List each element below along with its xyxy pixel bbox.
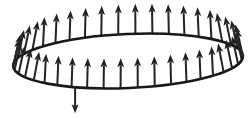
field-vector-up — [84, 58, 91, 88]
vector-shaft — [45, 61, 46, 83]
vector-shaft — [212, 53, 213, 75]
vector-shaft — [186, 59, 187, 82]
field-vector-down — [72, 87, 79, 113]
field-vector-up — [115, 4, 122, 34]
vector-shaft — [34, 59, 38, 81]
vector-shaft — [200, 56, 201, 79]
vector-shaft — [210, 17, 211, 39]
field-vector-up — [196, 49, 203, 79]
field-vector-up — [165, 4, 172, 34]
flux-diagram-figure: Flux through a circular loop — [0, 0, 252, 119]
field-vector-up — [41, 17, 48, 46]
field-vector-up — [32, 21, 39, 50]
vector-shaft — [32, 28, 36, 50]
vector-shaft — [168, 11, 169, 34]
field-vector-up — [98, 6, 105, 36]
field-vector-up — [151, 56, 158, 86]
field-vector-up — [207, 10, 214, 39]
field-vector-up — [182, 52, 189, 82]
field-vector-up — [180, 5, 187, 35]
field-vector-up — [34, 52, 41, 81]
vector-shaft — [219, 50, 223, 72]
vector-shaft — [55, 21, 56, 44]
field-vector-up — [132, 4, 139, 34]
field-vector-up — [216, 43, 223, 72]
vector-shaft — [43, 24, 44, 46]
field-vector-up — [67, 10, 74, 40]
vector-shaft — [87, 65, 88, 88]
field-vector-up — [53, 14, 60, 44]
vector-shaft — [218, 20, 222, 42]
field-vector-up — [194, 7, 201, 37]
vector-shaft — [25, 56, 29, 77]
vector-shaft — [171, 61, 172, 84]
field-vector-up — [209, 46, 216, 75]
field-vector-up — [167, 54, 174, 84]
field-vector-up — [117, 58, 124, 88]
vector-shaft — [184, 12, 185, 35]
field-vector-up — [149, 4, 156, 34]
field-vector-up — [55, 56, 62, 86]
field-vector-up — [69, 57, 76, 87]
field-vector-up — [42, 54, 49, 83]
field-vector-up — [100, 58, 107, 88]
field-vector-up — [215, 13, 222, 42]
downward-vector-group — [72, 87, 79, 113]
field-vector-up — [224, 17, 231, 45]
vector-shaft — [57, 63, 58, 86]
vector-shaft — [72, 64, 73, 87]
vector-shaft — [70, 17, 71, 40]
vector-shaft — [228, 47, 232, 68]
vector-shaft — [198, 14, 199, 37]
vector-shaft — [85, 15, 86, 38]
field-vector-up — [82, 8, 89, 38]
field-vector-up — [134, 58, 141, 88]
flux-diagram-canvas — [0, 0, 252, 119]
